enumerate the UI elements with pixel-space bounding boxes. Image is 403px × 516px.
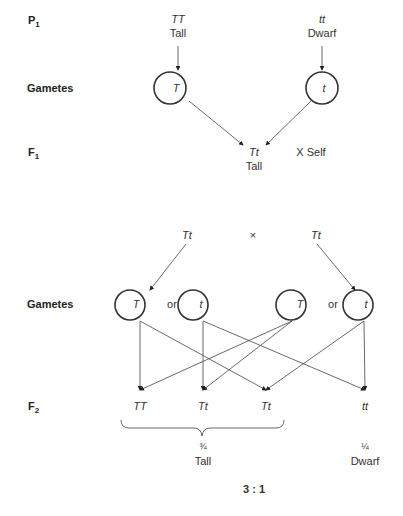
cross-symbol: × — [250, 229, 256, 241]
row-label-gametes-2: Gametes — [27, 298, 73, 310]
f1-genotype: Tt — [249, 146, 259, 158]
p1-right-genotype: tt — [319, 13, 325, 25]
or-1: or — [167, 298, 177, 310]
row-label-f2: F2 — [28, 400, 39, 415]
gamete2-t-2: t — [364, 298, 367, 310]
cross2-right: Tt — [311, 229, 321, 241]
p1-left-phenotype: Tall — [170, 27, 187, 39]
cross2-left: Tt — [182, 229, 192, 241]
f2-genotype-2: Tt — [198, 400, 208, 412]
gamete2-T-2: T — [297, 298, 304, 310]
brace — [121, 420, 284, 436]
self-cross-label: X Self — [296, 146, 325, 158]
f1-phenotype: Tall — [246, 160, 263, 172]
cross-diagram-lines — [0, 0, 403, 516]
p1-left-genotype: TT — [171, 13, 184, 25]
ratio: 3 : 1 — [243, 483, 265, 495]
dwarf-label: Dwarf — [351, 455, 380, 467]
row-label-p1: P1 — [28, 14, 40, 29]
dwarf-fraction: ¼ — [361, 441, 369, 451]
tall-label: Tall — [195, 455, 212, 467]
gamete2-t-1: t — [199, 298, 202, 310]
gamete-T: T — [173, 82, 180, 94]
f2-genotype-4: tt — [362, 400, 368, 412]
row-label-gametes: Gametes — [27, 82, 73, 94]
or-2: or — [328, 298, 338, 310]
tall-fraction: ¾ — [199, 441, 207, 451]
gamete2-T-1: T — [133, 298, 140, 310]
gamete-t: t — [322, 82, 325, 94]
f2-genotype-1: TT — [133, 400, 146, 412]
f2-genotype-3: Tt — [261, 400, 271, 412]
row-label-f1: F1 — [28, 146, 39, 161]
p1-right-phenotype: Dwarf — [308, 27, 337, 39]
